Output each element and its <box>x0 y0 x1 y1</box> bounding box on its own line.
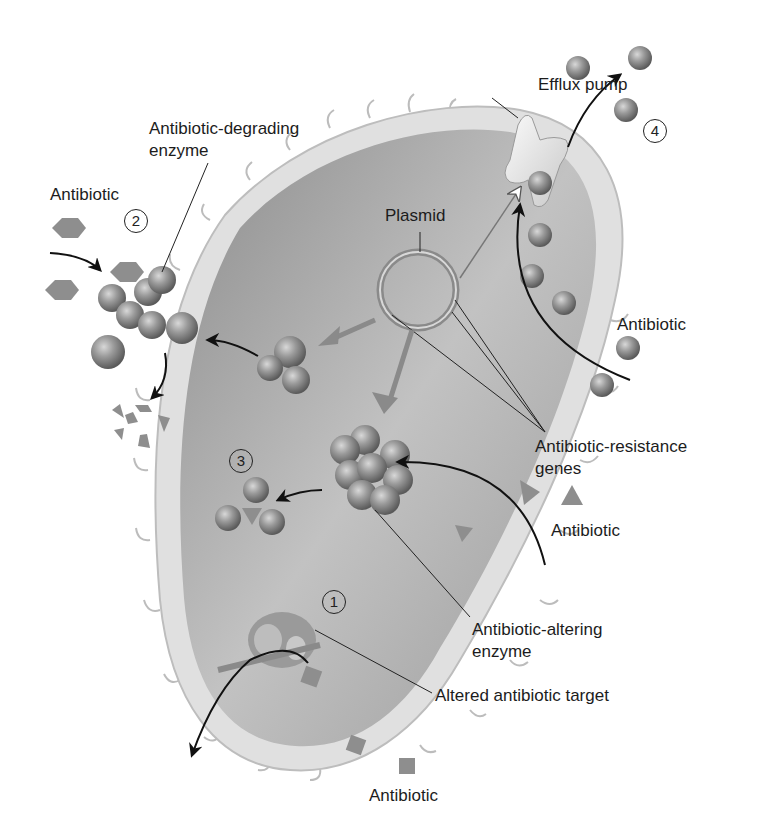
label-antibiotic-square: Antibiotic <box>369 786 438 806</box>
mechanism-number-3: 3 <box>229 449 253 473</box>
label-antibiotic-altering-enzyme-line1: Antibiotic-altering <box>472 620 602 640</box>
label-antibiotic-degrading-enzyme-line1: Antibiotic-degrading <box>149 119 299 139</box>
label-altered-antibiotic-target: Altered antibiotic target <box>435 686 609 706</box>
label-efflux-pump: Efflux pump <box>538 75 627 95</box>
label-antibiotic-sphere: Antibiotic <box>617 315 686 335</box>
label-antibiotic-degrading-enzyme-line2: enzyme <box>149 141 209 161</box>
label-plasmid: Plasmid <box>385 206 445 226</box>
label-antibiotic-hexagon: Antibiotic <box>50 185 119 205</box>
mechanism-number-1: 1 <box>322 590 346 614</box>
label-antibiotic-triangle: Antibiotic <box>551 521 620 541</box>
antibiotic-resistance-diagram: Efflux pump Antibiotic-degrading enzyme … <box>0 0 761 823</box>
label-antibiotic-resistance-genes-line1: Antibiotic-resistance <box>535 437 687 457</box>
mechanism-number-2: 2 <box>124 209 148 233</box>
label-antibiotic-altering-enzyme-line2: enzyme <box>472 642 532 662</box>
mechanism-number-4: 4 <box>643 119 667 143</box>
label-antibiotic-resistance-genes-line2: genes <box>535 459 581 479</box>
